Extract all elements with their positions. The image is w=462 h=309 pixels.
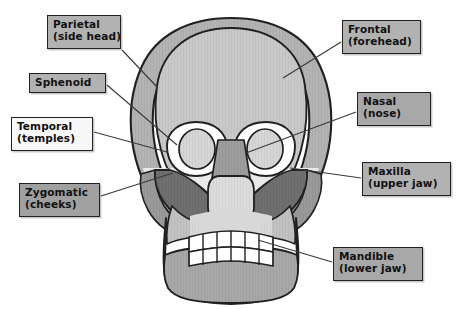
teeth-region: [189, 231, 273, 266]
callout-parietal-bone-name: Parietal: [53, 18, 100, 30]
callout-sphenoid[interactable]: Sphenoid: [29, 73, 106, 93]
callout-maxilla[interactable]: Maxilla(upper jaw): [362, 162, 451, 196]
callout-frontal[interactable]: Frontal(forehead): [342, 20, 421, 54]
callout-parietal-common-name: (side head): [53, 30, 115, 42]
callout-zygomatic-bone-name: Zygomatic: [25, 186, 88, 198]
nasal-bone-region: [212, 140, 250, 178]
callout-temporal-bone-name: Temporal: [17, 120, 72, 132]
callout-zygomatic-common-name: (cheeks): [25, 198, 94, 210]
skull-diagram: Parietal(side head)SphenoidTemporal(temp…: [0, 0, 462, 309]
callout-frontal-common-name: (forehead): [348, 35, 415, 47]
callout-nasal[interactable]: Nasal(nose): [357, 92, 431, 126]
callout-sphenoid-bone-name: Sphenoid: [35, 76, 91, 88]
callout-zygomatic[interactable]: Zygomatic(cheeks): [19, 183, 100, 217]
callout-maxilla-common-name: (upper jaw): [368, 177, 445, 189]
callout-parietal[interactable]: Parietal(side head): [47, 15, 121, 49]
callout-mandible-bone-name: Mandible: [339, 250, 394, 262]
callout-mandible[interactable]: Mandible(lower jaw): [333, 247, 423, 281]
callout-frontal-bone-name: Frontal: [348, 23, 391, 35]
callout-mandible-common-name: (lower jaw): [339, 262, 417, 274]
callout-temporal[interactable]: Temporal(temples): [11, 117, 93, 151]
callout-nasal-bone-name: Nasal: [363, 95, 396, 107]
callout-maxilla-bone-name: Maxilla: [368, 165, 411, 177]
callout-temporal-common-name: (temples): [17, 132, 87, 144]
callout-nasal-common-name: (nose): [363, 107, 425, 119]
